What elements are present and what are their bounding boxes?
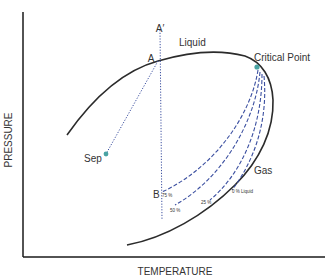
quality-line-50 — [175, 72, 260, 205]
critical-point-marker — [254, 64, 259, 69]
label-liquid: Liquid — [179, 37, 206, 48]
label-sep: Sep — [84, 153, 102, 164]
phase-diagram: TEMPERATURE PRESSURE A′ A Liquid Critica… — [0, 0, 331, 280]
label-a: A — [148, 53, 155, 64]
quality-line-75 — [162, 70, 258, 192]
separator-path-line — [106, 61, 158, 154]
label-a-prime: A′ — [156, 23, 165, 34]
label-25-percent: 25 % — [201, 200, 211, 205]
isothermal-line — [160, 30, 162, 220]
sep-marker — [104, 152, 109, 157]
label-0-percent-liquid: 0 % Liquid — [232, 189, 254, 194]
quality-lines — [162, 70, 265, 205]
label-75-percent: 75 % — [162, 193, 172, 198]
label-50-percent: 50 % — [170, 208, 180, 213]
x-axis-label: TEMPERATURE — [138, 266, 213, 277]
label-critical-point: Critical Point — [254, 52, 310, 63]
label-gas: Gas — [254, 165, 272, 176]
y-axis-label: PRESSURE — [3, 112, 14, 167]
label-b: B — [153, 189, 160, 200]
quality-line-25 — [210, 74, 262, 200]
phase-envelope-curve — [67, 52, 273, 245]
